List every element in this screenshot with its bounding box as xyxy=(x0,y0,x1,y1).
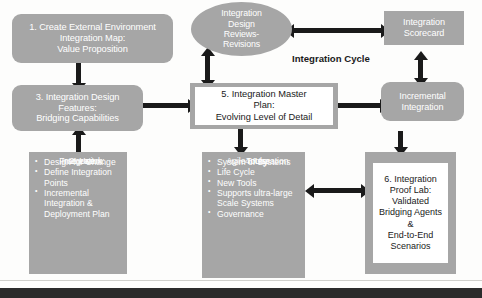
node-line: Scenarios xyxy=(390,241,430,252)
node-line: Reviews- xyxy=(191,29,292,39)
node-integration-design-reviews-revisions[interactable]: Integration Design Reviews- Revisions xyxy=(191,2,292,56)
node-bullet-list: Design for Change Define Integration Poi… xyxy=(33,157,124,219)
node-line: 5. Integration Master xyxy=(221,89,306,101)
integration-cycle-diagram: 1. Create External Environment Integrati… xyxy=(0,0,482,298)
node-line: Features: xyxy=(12,103,143,114)
node-line: Integration xyxy=(381,102,464,113)
node-line: Incremental xyxy=(381,91,464,102)
node-create-external-environment[interactable]: 1. Create External Environment Integrati… xyxy=(12,14,173,63)
bullet-item: Incremental Integration & Deployment Pla… xyxy=(44,188,124,219)
node-line: Plan: xyxy=(253,100,274,112)
node-line: End-to-End xyxy=(388,230,434,241)
node-line: Validated xyxy=(392,196,429,207)
footer-divider xyxy=(0,280,482,281)
node-integration-scorecard[interactable]: Integration Scorecard xyxy=(384,11,464,45)
node-line: Scorecard xyxy=(384,28,464,39)
node-line: 6. Integration xyxy=(384,174,437,185)
node-integration-design-features[interactable]: 3. Integration Design Features: Bridging… xyxy=(12,85,143,131)
node-use-integration-framework[interactable]: 2. Use Integration Framework: Design for… xyxy=(29,152,127,274)
node-line: Value Proposition xyxy=(12,44,173,55)
node-line: 3. Integration Design xyxy=(12,92,143,103)
bullet-item: Life Cycle xyxy=(217,167,302,177)
bullet-item: System of Systems xyxy=(217,157,302,167)
node-line: 1. Create External Environment xyxy=(12,22,173,33)
node-line: Integration Map: xyxy=(12,33,173,44)
bullet-item: Define Integration Points xyxy=(44,167,124,188)
bullet-item: Design for Change xyxy=(44,157,124,167)
node-line: Design xyxy=(191,19,292,29)
node-line: Proof Lab: xyxy=(390,185,432,196)
node-incremental-integration[interactable]: Incremental Integration xyxy=(381,82,464,121)
node-line: Revisions xyxy=(191,39,292,49)
bullet-item: Supports ultra-large Scale Systems xyxy=(217,188,302,209)
integration-cycle-label: Integration Cycle xyxy=(292,53,370,64)
node-line: Integration xyxy=(191,8,292,18)
bullet-item: New Tools xyxy=(217,178,302,188)
node-line: Integration xyxy=(384,17,464,28)
bullet-item: Governance xyxy=(217,209,302,219)
node-integration-master-plan[interactable]: 5. Integration Master Plan: Evolving Lev… xyxy=(190,83,338,129)
node-line: Bridging Agents xyxy=(379,207,442,218)
node-integration-proof-lab[interactable]: 6. Integration Proof Lab: Validated Brid… xyxy=(365,152,456,274)
node-line: & xyxy=(407,219,413,230)
footer-band xyxy=(0,288,482,298)
node-line: Evolving Level of Detail xyxy=(216,112,313,124)
node-line: Bridging Capabilities xyxy=(12,113,143,124)
node-use-agile-integration-tools[interactable]: 4. Use Agile Integration Tools: System o… xyxy=(202,152,305,278)
node-bullet-list: System of Systems Life Cycle New Tools S… xyxy=(206,157,302,219)
